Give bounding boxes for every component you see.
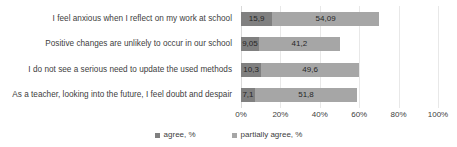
category-label: I feel anxious when I reflect on my work… bbox=[53, 14, 236, 24]
bar-value-label: 7,1 bbox=[242, 90, 253, 100]
bar-value-label: 49,6 bbox=[302, 65, 318, 75]
chart-legend: agree, % partially agree, % bbox=[0, 128, 457, 142]
bar-value-label: 10,3 bbox=[243, 65, 259, 75]
bar-track: 7,1 51,8 bbox=[241, 88, 438, 102]
category-label: I do not see a serious need to update th… bbox=[28, 65, 236, 75]
bar-value-label: 9,05 bbox=[242, 39, 258, 49]
bar-track: 10,3 49,6 bbox=[241, 63, 438, 77]
legend-item-agree[interactable]: agree, % bbox=[155, 130, 196, 140]
bar-rows: 15,9 54,09 9,05 41,2 bbox=[241, 6, 438, 108]
bar-track: 15,9 54,09 bbox=[241, 12, 438, 26]
bar-segment-partially-agree[interactable]: 49,6 bbox=[261, 63, 359, 77]
legend-item-partially-agree[interactable]: partially agree, % bbox=[232, 130, 303, 140]
bar-segment-agree[interactable]: 9,05 bbox=[241, 37, 259, 51]
stacked-bar-chart: I feel anxious when I reflect on my work… bbox=[0, 0, 457, 147]
category-label: Positive changes are unlikely to occur i… bbox=[45, 39, 236, 49]
bar-segment-agree[interactable]: 15,9 bbox=[241, 12, 272, 26]
category-label-row: I feel anxious when I reflect on my work… bbox=[0, 6, 236, 32]
x-tick-label: 100% bbox=[428, 109, 448, 121]
category-label: As a teacher, looking into the future, I… bbox=[12, 90, 236, 100]
bar-row: 7,1 51,8 bbox=[241, 83, 438, 109]
category-label-row: Positive changes are unlikely to occur i… bbox=[0, 32, 236, 58]
bar-row: 10,3 49,6 bbox=[241, 57, 438, 83]
bar-row: 9,05 41,2 bbox=[241, 32, 438, 58]
value-axis: 0% 20% 40% 60% 80% 100% bbox=[241, 109, 438, 123]
gridline bbox=[438, 6, 439, 108]
bar-segment-agree[interactable]: 10,3 bbox=[241, 63, 261, 77]
bar-segment-partially-agree[interactable]: 51,8 bbox=[255, 88, 357, 102]
category-label-row: As a teacher, looking into the future, I… bbox=[0, 83, 236, 109]
bar-segment-partially-agree[interactable]: 41,2 bbox=[259, 37, 340, 51]
bar-value-label: 51,8 bbox=[298, 90, 314, 100]
category-axis-labels: I feel anxious when I reflect on my work… bbox=[0, 6, 236, 108]
legend-label: agree, % bbox=[164, 130, 196, 140]
legend-label: partially agree, % bbox=[241, 130, 303, 140]
bar-value-label: 15,9 bbox=[249, 14, 265, 24]
x-tick-label: 80% bbox=[391, 109, 407, 121]
legend-swatch-icon bbox=[232, 133, 237, 138]
bar-value-label: 54,09 bbox=[316, 14, 336, 24]
category-label-row: I do not see a serious need to update th… bbox=[0, 57, 236, 83]
bar-row: 15,9 54,09 bbox=[241, 6, 438, 32]
bar-segment-agree[interactable]: 7,1 bbox=[241, 88, 255, 102]
legend-swatch-icon bbox=[155, 133, 160, 138]
x-tick-label: 20% bbox=[272, 109, 288, 121]
bar-segment-partially-agree[interactable]: 54,09 bbox=[272, 12, 379, 26]
bar-value-label: 41,2 bbox=[292, 39, 308, 49]
x-tick-label: 60% bbox=[351, 109, 367, 121]
x-tick-label: 0% bbox=[235, 109, 247, 121]
x-tick-label: 40% bbox=[312, 109, 328, 121]
plot-area: 15,9 54,09 9,05 41,2 bbox=[241, 6, 438, 108]
bar-track: 9,05 41,2 bbox=[241, 37, 438, 51]
